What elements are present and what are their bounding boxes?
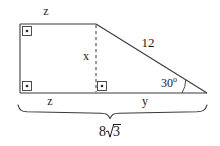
geometry-figure: z z y x 12 30o 83 xyxy=(0,0,220,146)
right-angle-marker-top-left xyxy=(23,27,32,36)
radicand-value: 3 xyxy=(113,124,121,140)
label-top-side-z: z xyxy=(36,5,56,17)
label-total-base-8-root-3: 83 xyxy=(85,124,135,140)
radical-coefficient: 8 xyxy=(99,124,106,139)
label-angle-30-degrees: 30o xyxy=(161,76,191,89)
degree-symbol: o xyxy=(173,75,177,84)
label-bottom-left-side-z: z xyxy=(40,95,60,107)
right-angle-marker-bottom-left xyxy=(23,82,32,91)
radical-expression: 83 xyxy=(99,124,121,140)
label-altitude-x: x xyxy=(78,50,94,62)
right-angle-marker-altitude-foot xyxy=(98,82,107,91)
label-bottom-right-side-y: y xyxy=(135,95,155,107)
label-hypotenuse-12: 12 xyxy=(137,36,159,49)
square-root-icon xyxy=(106,124,114,139)
angle-value: 30 xyxy=(161,76,173,90)
